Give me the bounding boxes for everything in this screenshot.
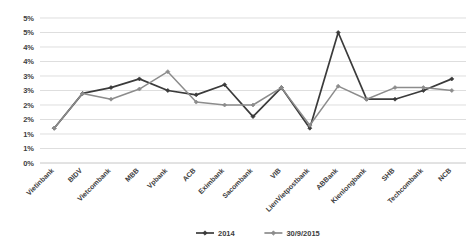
x-axis-tick-label: SHB: [380, 167, 395, 182]
x-axis-tick-label: Vpbank: [146, 167, 170, 191]
x-axis-tick-label: ACB: [181, 167, 197, 183]
chart-legend: 201430/9/2015: [196, 229, 320, 238]
y-axis-tick-label: 1%: [23, 130, 34, 139]
y-axis-tick-label: 4%: [23, 43, 34, 52]
series-data-point: [393, 86, 397, 90]
series-layer: [52, 31, 454, 131]
x-axis-tick-label: Eximbank: [197, 167, 225, 195]
legend-marker: [203, 231, 207, 235]
series-data-point: [109, 97, 113, 101]
line-chart-svg: 0%1%1%2%2%3%3%4%4%5%5% VietinbankBIDVVie…: [0, 0, 470, 250]
y-axis-tick-label: 3%: [23, 72, 34, 81]
x-axis-tick-label: Sacombank: [221, 167, 254, 200]
series-data-point: [223, 103, 227, 107]
y-axis-tick-label: 5%: [23, 14, 34, 23]
x-axis-tick-label: VIB: [269, 167, 282, 180]
series-data-point: [393, 97, 397, 101]
y-axis-tick-label: 4%: [23, 57, 34, 66]
x-axis-tick-labels: VietinbankBIDVVietcombankMBBVpbankACBExi…: [25, 167, 452, 214]
series-data-point: [421, 86, 425, 90]
series-data-point: [450, 89, 454, 93]
x-axis-tick-label: NCB: [437, 167, 453, 183]
plot-area: 0%1%1%2%2%3%3%4%4%5%5% VietinbankBIDVVie…: [0, 0, 470, 250]
x-axis-tick-label: BIDV: [67, 167, 84, 184]
gridlines: [40, 18, 466, 163]
y-axis-tick-label: 2%: [23, 115, 34, 124]
y-axis-tick-label: 5%: [23, 28, 34, 37]
y-axis-tick-label: 3%: [23, 86, 34, 95]
series-data-point: [109, 86, 113, 90]
y-axis-tick-labels: 0%1%1%2%2%3%3%4%4%5%5%: [23, 14, 34, 168]
y-axis-tick-label: 1%: [23, 144, 34, 153]
chart-container: 0%1%1%2%2%3%3%4%4%5%5% VietinbankBIDVVie…: [0, 0, 470, 250]
legend-label: 30/9/2015: [286, 229, 319, 238]
x-axis-tick-label: MBB: [124, 167, 140, 183]
legend-label: 2014: [218, 229, 236, 238]
y-axis-tick-label: 0%: [23, 159, 34, 168]
y-axis-tick-label: 2%: [23, 101, 34, 110]
x-axis-tick-label: Vietinbank: [25, 167, 55, 197]
x-axis-tick-label: ABBank: [315, 167, 339, 191]
legend-marker: [271, 231, 275, 235]
